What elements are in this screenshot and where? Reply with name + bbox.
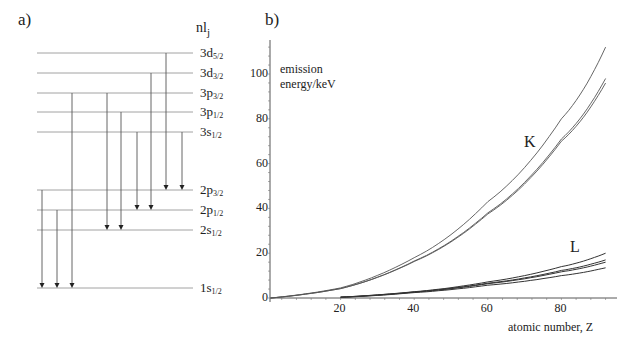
emission-energy-chart bbox=[0, 0, 637, 347]
series-label-l: L bbox=[570, 238, 580, 256]
series-line-k bbox=[271, 79, 606, 299]
x-tick-label: 80 bbox=[554, 301, 566, 316]
series-label-k: K bbox=[524, 133, 536, 151]
x-axis-label: atomic number, Z bbox=[508, 320, 593, 335]
series-line-l bbox=[341, 262, 606, 297]
x-tick-label: 20 bbox=[334, 301, 346, 316]
x-tick-label: 40 bbox=[407, 301, 419, 316]
y-tick-label: 80 bbox=[256, 111, 268, 126]
y-tick-label: 40 bbox=[256, 200, 268, 215]
series-line-k bbox=[271, 83, 606, 298]
y-tick-label: 0 bbox=[262, 290, 268, 305]
y-tick-label: 60 bbox=[256, 156, 268, 171]
y-axis-label-line2: energy/keV bbox=[280, 77, 336, 92]
y-axis-label-line1: emission bbox=[280, 62, 323, 77]
y-tick-label: 20 bbox=[256, 245, 268, 260]
y-tick-label: 100 bbox=[250, 66, 268, 81]
series-line-l bbox=[341, 268, 606, 298]
x-tick-label: 60 bbox=[481, 301, 493, 316]
